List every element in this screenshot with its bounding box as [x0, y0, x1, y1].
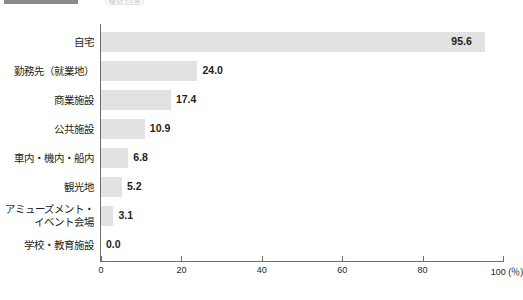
bar — [101, 177, 122, 197]
bar-row: アミューズメント・ イベント会場3.1 — [0, 201, 523, 230]
x-tick-label-40: 40 — [257, 265, 267, 275]
category-label: 学校・教育施設 — [0, 239, 94, 252]
bar-row: 商業施設17.4 — [0, 85, 523, 114]
category-label: 自宅 — [0, 36, 94, 49]
x-tick-label-100: 100 (％) — [491, 265, 523, 278]
bar-value-label: 95.6 — [451, 35, 471, 47]
bar-row: 観光地5.2 — [0, 172, 523, 201]
x-tick-label-60: 60 — [337, 265, 347, 275]
bar-row: 車内・機内・船内6.8 — [0, 143, 523, 172]
bar-value-label: 0.0 — [106, 238, 121, 250]
category-label: 公共施設 — [0, 123, 94, 136]
bar — [101, 61, 197, 81]
bar — [101, 90, 171, 110]
category-label: 観光地 — [0, 181, 94, 194]
bar-value-label: 6.8 — [133, 151, 148, 163]
bar-row: 自宅95.6 — [0, 27, 523, 56]
category-label: 車内・機内・船内 — [0, 152, 94, 165]
category-label: アミューズメント・ イベント会場 — [0, 203, 94, 229]
x-tick-label-80: 80 — [418, 265, 428, 275]
category-label: 商業施設 — [0, 94, 94, 107]
bar-value-label: 17.4 — [176, 93, 196, 105]
bar-row: 勤務先（就業地）24.0 — [0, 56, 523, 85]
bar — [101, 119, 145, 139]
category-label: 勤務先（就業地） — [0, 65, 94, 78]
bar-value-label: 24.0 — [202, 64, 222, 76]
bar-value-label: 3.1 — [118, 209, 133, 221]
bar-value-label: 10.9 — [150, 122, 170, 134]
bar-chart-plot: 020406080100 (％) 自宅95.6勤務先（就業地）24.0商業施設1… — [0, 0, 523, 300]
bar — [101, 32, 485, 52]
bar-row: 公共施設10.9 — [0, 114, 523, 143]
bar — [101, 206, 113, 226]
chart-page: （複数回答） 020406080100 (％) 自宅95.6勤務先（就業地）24… — [0, 0, 523, 300]
x-tick-label-0: 0 — [98, 265, 103, 275]
bar-value-label: 5.2 — [127, 180, 142, 192]
x-tick-label-20: 20 — [176, 265, 186, 275]
x-axis-line — [100, 261, 503, 262]
bar-row: 学校・教育施設0.0 — [0, 230, 523, 259]
bar — [101, 148, 128, 168]
